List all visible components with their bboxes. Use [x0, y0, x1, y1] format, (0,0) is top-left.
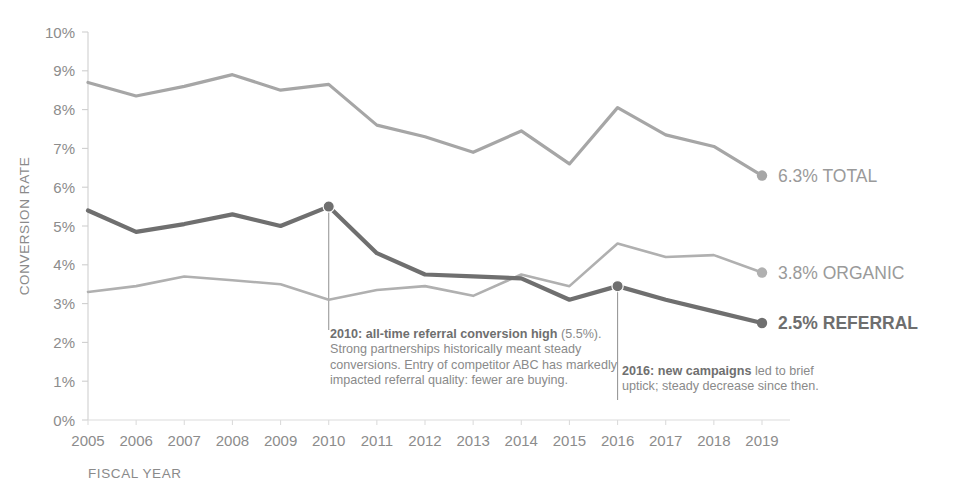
annotation-2016: 2016: new campaigns led to brief uptick;…	[622, 364, 822, 395]
marker-dot-referral-2010	[323, 201, 334, 212]
x-tick-label: 2016	[601, 432, 634, 449]
y-tick-label: 0%	[53, 412, 75, 429]
x-axis-tick-labels: 2005200620072008200920102011201220132014…	[71, 432, 778, 449]
x-tick-label: 2017	[649, 432, 682, 449]
x-tick-label: 2013	[456, 432, 489, 449]
x-tick-label: 2007	[168, 432, 201, 449]
annotation-2016-bold: 2016: new campaigns	[622, 364, 752, 378]
x-axis-title: FISCAL YEAR	[88, 466, 182, 481]
x-tick-label: 2011	[361, 432, 393, 449]
conversion-rate-line-chart: 0%1%2%3%4%5%6%7%8%9%10% 2005200620072008…	[0, 0, 953, 499]
x-tick-label: 2005	[71, 432, 104, 449]
series-lines	[88, 75, 762, 323]
x-tick-label: 2019	[745, 432, 778, 449]
y-axis-title: CONVERSION RATE	[17, 157, 32, 296]
x-axis-ticks	[88, 420, 762, 425]
x-tick-label: 2009	[264, 432, 297, 449]
y-tick-label: 7%	[53, 140, 75, 157]
y-tick-label: 3%	[53, 295, 75, 312]
x-tick-label: 2008	[216, 432, 249, 449]
x-tick-label: 2006	[119, 432, 152, 449]
x-tick-label: 2018	[697, 432, 730, 449]
x-tick-label: 2015	[553, 432, 586, 449]
y-tick-label: 9%	[53, 62, 75, 79]
x-tick-label: 2010	[312, 432, 345, 449]
y-axis-tick-labels: 0%1%2%3%4%5%6%7%8%9%10%	[45, 24, 75, 429]
y-tick-label: 5%	[53, 218, 75, 235]
annotation-2010-bold: 2010: all-time referral conversion high	[330, 327, 557, 341]
series-line-organic	[88, 243, 762, 299]
x-tick-label: 2014	[505, 432, 538, 449]
series-line-referral	[88, 207, 762, 323]
series-end-label-referral: 2.5% REFERRAL	[778, 313, 918, 333]
y-tick-label: 2%	[53, 334, 75, 351]
y-axis-ticks	[82, 32, 88, 420]
end-dot-total	[757, 170, 767, 180]
y-tick-label: 8%	[53, 101, 75, 118]
series-end-labels: 6.3% TOTAL3.8% ORGANIC2.5% REFERRAL	[757, 166, 919, 333]
annotation-2010: 2010: all-time referral conversion high …	[330, 327, 626, 389]
y-tick-label: 10%	[45, 24, 75, 41]
y-tick-label: 6%	[53, 179, 75, 196]
end-dot-referral	[757, 318, 767, 328]
series-end-label-organic: 3.8% ORGANIC	[778, 263, 904, 283]
y-tick-label: 4%	[53, 256, 75, 273]
marker-dot-referral-2016	[612, 281, 623, 292]
y-tick-label: 1%	[53, 373, 75, 390]
series-line-total	[88, 75, 762, 176]
chart-canvas: 0%1%2%3%4%5%6%7%8%9%10% 2005200620072008…	[0, 0, 953, 499]
series-end-label-total: 6.3% TOTAL	[778, 166, 877, 186]
x-tick-label: 2012	[408, 432, 441, 449]
end-dot-organic	[757, 267, 767, 277]
